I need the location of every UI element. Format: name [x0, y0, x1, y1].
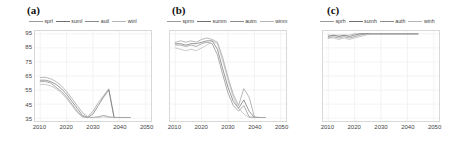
legend-label: auth — [395, 18, 405, 24]
y-tick-label: 35 — [12, 116, 32, 122]
y-axis-panel-a: Availability (%) 35455565758595 — [12, 30, 32, 122]
legend-item[interactable]: autl — [85, 18, 109, 24]
y-tick-label: 85 — [12, 44, 32, 50]
y-tick-label: 65 — [12, 73, 32, 79]
legend-label: sprl — [45, 18, 53, 24]
x-tick-label: 2020 — [194, 124, 207, 130]
plot-svg-a — [35, 31, 151, 121]
legend-label: winl — [128, 18, 137, 24]
legend-label: autm — [245, 18, 257, 24]
x-axis-panel-c: 20102020203020402050 — [322, 124, 440, 136]
panel-label-b: (b) — [172, 4, 185, 16]
y-tick-label: 45 — [12, 102, 32, 108]
legend-swatch-suml — [56, 21, 70, 22]
legend-label: sprh — [336, 18, 346, 24]
legend-panel-b: sprm summ autm winm — [167, 18, 287, 24]
legend-label: summ — [213, 18, 227, 24]
series-line-winh — [328, 34, 418, 40]
x-axis-panel-b: 20102020203020402050 — [169, 124, 287, 136]
chart-panel-c: (c) sprh sumh auth winh 20 — [310, 0, 465, 146]
legend-label: winm — [275, 18, 287, 24]
legend-label: winh — [424, 18, 435, 24]
legend-label: sumh — [364, 18, 377, 24]
y-tick-label: 55 — [12, 87, 32, 93]
plot-wrap-b — [169, 30, 287, 122]
x-tick-label: 2050 — [140, 124, 153, 130]
plot-area-a — [34, 30, 152, 122]
legend-item[interactable]: autm — [230, 18, 257, 24]
x-tick-label: 2010 — [168, 124, 181, 130]
legend-panel-c: sprh sumh auth winh — [320, 18, 435, 24]
figure-panel-group: (a) sprl suml autl winl Availability (%)… — [0, 0, 465, 146]
legend-item[interactable]: sprl — [29, 18, 53, 24]
x-tick-label: 2010 — [33, 124, 46, 130]
legend-item[interactable]: summ — [197, 18, 227, 24]
legend-item[interactable]: auth — [380, 18, 406, 24]
x-tick-label: 2030 — [221, 124, 234, 130]
legend-swatch-summ — [197, 21, 211, 22]
legend-swatch-sprm — [167, 21, 181, 22]
legend-item[interactable]: winm — [260, 18, 288, 24]
legend-swatch-auth — [380, 21, 394, 22]
x-tick-label: 2040 — [248, 124, 261, 130]
plot-wrap-a — [34, 30, 152, 122]
legend-swatch-autl — [85, 21, 99, 22]
legend-item[interactable]: winh — [408, 18, 434, 24]
x-tick-label: 2030 — [86, 124, 99, 130]
x-tick-label: 2020 — [59, 124, 72, 130]
legend-swatch-autm — [230, 21, 244, 22]
x-tick-label: 2040 — [401, 124, 414, 130]
legend-item[interactable]: sprh — [320, 18, 346, 24]
legend-label: sprm — [183, 18, 195, 24]
y-tick-label: 95 — [12, 30, 32, 36]
y-tick-label: 75 — [12, 59, 32, 65]
legend-item[interactable]: suml — [56, 18, 82, 24]
legend-item[interactable]: sumh — [349, 18, 377, 24]
legend-swatch-sumh — [349, 21, 363, 22]
legend-item[interactable]: sprm — [167, 18, 194, 24]
legend-swatch-winm — [260, 21, 274, 22]
legend-item[interactable]: winl — [112, 18, 136, 24]
legend-swatch-winl — [112, 21, 126, 22]
plot-wrap-c — [322, 30, 440, 122]
panel-label-c: (c) — [327, 4, 339, 16]
series-line-suml — [40, 80, 130, 117]
legend-panel-a: sprl suml autl winl — [29, 18, 137, 24]
x-tick-label: 2050 — [275, 124, 288, 130]
plot-area-c — [322, 30, 440, 122]
chart-panel-b: (b) sprm summ autm winm 20 — [155, 0, 310, 146]
chart-panel-a: (a) sprl suml autl winl Availability (%)… — [0, 0, 155, 146]
plot-svg-b — [170, 31, 286, 121]
x-axis-panel-a: 20102020203020402050 — [34, 124, 152, 136]
x-tick-label: 2040 — [113, 124, 126, 130]
x-tick-label: 2020 — [347, 124, 360, 130]
x-tick-label: 2010 — [321, 124, 334, 130]
legend-label: suml — [71, 18, 82, 24]
panel-label-a: (a) — [27, 4, 40, 16]
series-line-winl — [40, 84, 130, 117]
legend-swatch-winh — [408, 21, 422, 22]
x-tick-label: 2030 — [374, 124, 387, 130]
plot-area-b — [169, 30, 287, 122]
legend-swatch-sprh — [320, 21, 334, 22]
plot-svg-c — [323, 31, 439, 121]
x-tick-label: 2050 — [428, 124, 441, 130]
legend-label: autl — [101, 18, 109, 24]
legend-swatch-sprl — [29, 21, 43, 22]
